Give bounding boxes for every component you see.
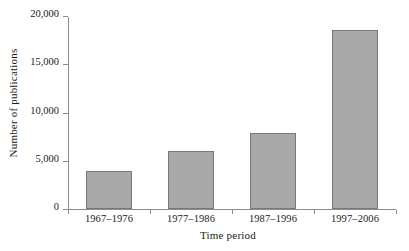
y-tick-3: 15,000 bbox=[63, 64, 68, 65]
x-category-label-2: 1987–1996 bbox=[232, 213, 314, 224]
x-tick-4 bbox=[396, 210, 397, 214]
x-category-label-1: 1977–1986 bbox=[150, 213, 232, 224]
y-tick-label-2: 10,000 bbox=[30, 105, 59, 116]
bar-2[interactable] bbox=[250, 133, 296, 209]
bar-chart-figure: Number of publications 0 5,000 10,000 15… bbox=[0, 0, 409, 251]
y-tick-label-4: 20,000 bbox=[30, 8, 59, 19]
x-category-label-3: 1997–2006 bbox=[314, 213, 396, 224]
y-tick-label-0: 0 bbox=[54, 201, 59, 212]
x-category-label-0: 1967–1976 bbox=[68, 213, 150, 224]
bar-0[interactable] bbox=[86, 171, 132, 209]
y-tick-4: 20,000 bbox=[63, 16, 68, 17]
bar-3[interactable] bbox=[332, 30, 378, 209]
y-axis-line bbox=[68, 17, 69, 210]
y-axis-title: Number of publications bbox=[7, 18, 19, 188]
x-axis-title: Time period bbox=[60, 229, 396, 241]
y-tick-2: 10,000 bbox=[63, 113, 68, 114]
y-tick-label-1: 5,000 bbox=[35, 153, 59, 164]
y-tick-1: 5,000 bbox=[63, 161, 68, 162]
bar-1[interactable] bbox=[168, 151, 214, 209]
y-tick-label-3: 15,000 bbox=[30, 56, 59, 67]
plot-area: 0 5,000 10,000 15,000 20,000 bbox=[68, 17, 396, 210]
